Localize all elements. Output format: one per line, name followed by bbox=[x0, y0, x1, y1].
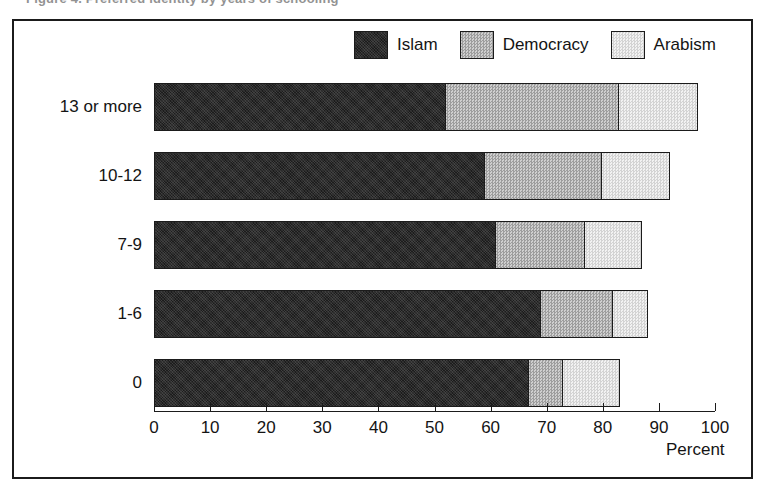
x-tick-label: 90 bbox=[649, 418, 668, 438]
bar-segment-arabism bbox=[613, 291, 647, 337]
legend-item-arabism: Arabism bbox=[611, 31, 716, 59]
bar-segment-arabism bbox=[563, 360, 619, 406]
x-tick bbox=[210, 403, 211, 411]
x-tick bbox=[435, 403, 436, 411]
x-tick-label: 10 bbox=[201, 418, 220, 438]
x-tick bbox=[266, 403, 267, 411]
legend-item-democracy: Democracy bbox=[460, 31, 589, 59]
bar-segment-democracy bbox=[529, 360, 563, 406]
x-tick bbox=[659, 403, 660, 411]
x-tick-label: 80 bbox=[593, 418, 612, 438]
x-tick bbox=[603, 403, 604, 411]
chart-legend: Islam Democracy Arabism bbox=[354, 31, 716, 59]
category-label: 0 bbox=[133, 373, 142, 393]
legend-label-arabism: Arabism bbox=[654, 35, 716, 55]
x-tick bbox=[715, 403, 716, 411]
bar-segment-democracy bbox=[496, 222, 585, 268]
bar-row: 10-12 bbox=[154, 152, 715, 200]
bar-segment-democracy bbox=[485, 153, 602, 199]
category-label: 10-12 bbox=[99, 166, 142, 186]
stacked-bar bbox=[154, 290, 648, 338]
x-axis: 0102030405060708090100 bbox=[154, 411, 715, 412]
bar-segment-islam bbox=[155, 153, 485, 199]
stacked-bar bbox=[154, 221, 642, 269]
stacked-bar bbox=[154, 359, 620, 407]
bar-segment-islam bbox=[155, 222, 496, 268]
legend-item-islam: Islam bbox=[354, 31, 438, 59]
x-tick-label: 60 bbox=[481, 418, 500, 438]
x-tick bbox=[154, 403, 155, 411]
bar-segment-democracy bbox=[541, 291, 614, 337]
x-tick-label: 100 bbox=[701, 418, 729, 438]
bar-segment-arabism bbox=[619, 84, 697, 130]
x-axis-title: Percent bbox=[666, 440, 725, 460]
bar-segment-islam bbox=[155, 360, 529, 406]
x-tick bbox=[491, 403, 492, 411]
x-tick-label: 20 bbox=[257, 418, 276, 438]
x-tick bbox=[378, 403, 379, 411]
category-label: 7-9 bbox=[117, 235, 142, 255]
bar-row: 7-9 bbox=[154, 221, 715, 269]
legend-swatch-islam bbox=[354, 31, 388, 59]
bar-segment-islam bbox=[155, 84, 446, 130]
x-tick bbox=[322, 403, 323, 411]
bar-segment-arabism bbox=[585, 222, 641, 268]
plot-area: 13 or more10-127-91-60 bbox=[154, 71, 715, 407]
legend-swatch-arabism bbox=[611, 31, 645, 59]
legend-swatch-democracy bbox=[460, 31, 494, 59]
x-tick-label: 30 bbox=[313, 418, 332, 438]
category-label: 13 or more bbox=[60, 97, 142, 117]
stacked-bar bbox=[154, 152, 670, 200]
stacked-bar bbox=[154, 83, 698, 131]
bar-row: 13 or more bbox=[154, 83, 715, 131]
legend-label-democracy: Democracy bbox=[503, 35, 589, 55]
bar-segment-democracy bbox=[446, 84, 619, 130]
bar-segment-arabism bbox=[602, 153, 669, 199]
x-tick-label: 70 bbox=[537, 418, 556, 438]
bar-row: 1-6 bbox=[154, 290, 715, 338]
x-tick bbox=[547, 403, 548, 411]
category-label: 1-6 bbox=[117, 304, 142, 324]
legend-label-islam: Islam bbox=[397, 35, 438, 55]
chart-frame: Islam Democracy Arabism 13 or more10-127… bbox=[12, 19, 753, 479]
x-tick-label: 0 bbox=[149, 418, 158, 438]
bar-segment-islam bbox=[155, 291, 541, 337]
cut-off-figure-caption: Figure 4. Preferred identity by years of… bbox=[0, 0, 766, 7]
x-tick-label: 40 bbox=[369, 418, 388, 438]
x-tick-label: 50 bbox=[425, 418, 444, 438]
bar-row: 0 bbox=[154, 359, 715, 407]
